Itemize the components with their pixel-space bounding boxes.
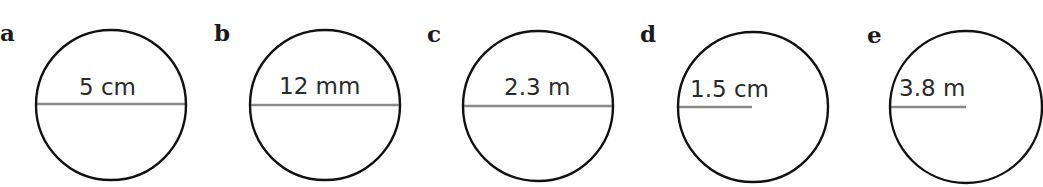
circle-item-e: e3.8 m [867,21,1042,183]
diameter-value-label: 5 cm [79,74,136,100]
circles-figure: a5 cmb12 mmc2.3 md1.5 cme3.8 m [0,0,1043,187]
radius-value-label: 3.8 m [899,75,965,101]
radius-value-label: 1.5 cm [690,76,769,102]
circle-item-b: b12 mm [214,19,400,180]
part-label: d [640,20,656,47]
circle-item-a: a5 cm [0,19,186,180]
part-label: c [427,20,441,47]
diameter-value-label: 12 mm [279,73,360,99]
circle-items: a5 cmb12 mmc2.3 md1.5 cme3.8 m [0,19,1042,183]
part-label: a [0,19,15,46]
circle-item-d: d1.5 cm [640,20,828,182]
diameter-value-label: 2.3 m [504,74,570,100]
part-label: e [867,21,882,48]
part-label: b [214,19,230,46]
circle-item-c: c2.3 m [427,20,613,181]
